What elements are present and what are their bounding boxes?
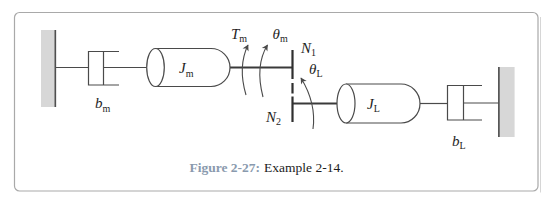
theta-m-arrow	[260, 45, 268, 97]
tm-label: Tm	[231, 26, 247, 45]
theta-m-label-sub: m	[280, 33, 288, 44]
jm-cylinder-end-cap	[147, 49, 165, 87]
jm-label-sub: m	[186, 68, 194, 79]
bl-label-sub: L	[460, 140, 466, 151]
figure-caption: Figure 2-27:Example 2-14.	[189, 160, 343, 175]
n1-label: N1	[300, 40, 316, 59]
theta-m-label: θm	[273, 26, 288, 45]
bm-label: bm	[95, 95, 111, 114]
tm-label-sub: m	[239, 33, 247, 44]
figure-panel: bm Jm Tm θm N1 θL N2 JL bL Figure 2-27:E…	[0, 0, 554, 205]
right-wall	[499, 67, 515, 137]
left-wall-fill	[41, 30, 55, 107]
torque-tm-arrow	[242, 45, 248, 95]
figure-caption-text: Example 2-14.	[264, 160, 343, 175]
theta-l-label: θL	[309, 61, 322, 80]
bm-label-sub: m	[103, 103, 111, 114]
theta-l-label-sub: L	[316, 68, 322, 79]
damper-bm	[89, 52, 120, 86]
n2-label-sub: 2	[276, 116, 281, 127]
n1-label-sub: 1	[311, 47, 316, 58]
jl-cylinder-end-cap	[337, 84, 355, 123]
jl-cylinder-body	[346, 84, 420, 123]
n2-label: N2	[265, 109, 281, 128]
jl-label-sub: L	[374, 103, 380, 114]
mechanical-system-diagram: bm Jm Tm θm N1 θL N2 JL bL Figure 2-27:E…	[0, 0, 554, 205]
figure-caption-label: Figure 2-27:	[189, 160, 260, 175]
left-wall	[41, 30, 55, 107]
right-wall-fill	[500, 67, 515, 137]
bl-label: bL	[452, 133, 466, 152]
